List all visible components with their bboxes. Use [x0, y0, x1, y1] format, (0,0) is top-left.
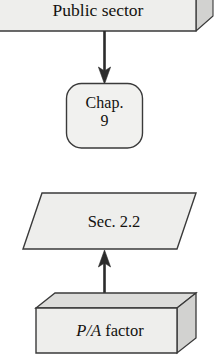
- sec-2-2-shape: [23, 193, 196, 249]
- pa-factor-front-face: [36, 308, 177, 353]
- flowchart-canvas: [0, 0, 219, 362]
- node-sec-2-2: [23, 193, 196, 249]
- node-chap-9: [67, 84, 143, 149]
- chap-9-shape: [67, 84, 143, 149]
- public-sector-side-face: [196, 0, 213, 31]
- edge-public-to-chap: [98, 31, 110, 84]
- node-pa-factor: [36, 293, 196, 353]
- node-public-sector: [0, 0, 213, 31]
- flowchart-diagram: Public sector Chap.9 Sec. 2.2 P/A factor: [0, 0, 219, 362]
- public-sector-front-face: [0, 0, 196, 31]
- pa-factor-top-face: [36, 293, 196, 308]
